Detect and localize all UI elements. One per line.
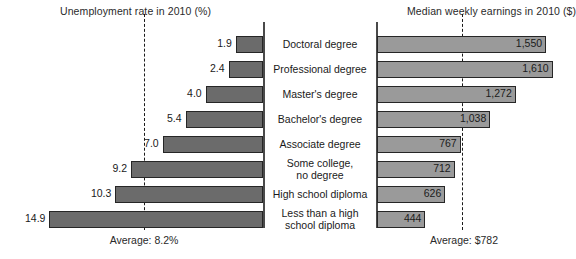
category-label: Bachelor's degree: [267, 107, 373, 132]
unemployment-bar: [49, 211, 263, 228]
unemployment-bar: [229, 61, 263, 78]
right-panel-title: Median weekly earnings in 2010 ($): [407, 5, 576, 17]
unemployment-value-label: 5.4: [167, 112, 182, 124]
category-label: High school diploma: [267, 182, 373, 207]
left-average-label: Average: 8.2%: [110, 234, 179, 246]
chart-row: 2.4Professional degree1,610: [0, 57, 568, 82]
earnings-value-label: 1,038: [460, 112, 486, 124]
category-label: Some college, no degree: [267, 157, 373, 182]
left-panel-title: Unemployment rate in 2010 (%): [60, 5, 211, 17]
chart-row: 1.9Doctoral degree1,550: [0, 32, 568, 57]
unemployment-bar: [186, 111, 263, 128]
unemployment-value-label: 7.0: [144, 137, 159, 149]
unemployment-value-label: 14.9: [25, 212, 45, 224]
earnings-value-label: 1,550: [516, 37, 542, 49]
unemployment-value-label: 4.0: [187, 87, 202, 99]
earnings-value-label: 626: [424, 187, 442, 199]
category-label: Associate degree: [267, 132, 373, 157]
unemployment-bar: [163, 136, 263, 153]
chart-row: 7.0Associate degree767: [0, 132, 568, 157]
category-label: Professional degree: [267, 57, 373, 82]
earnings-value-label: 444: [404, 212, 422, 224]
chart-row: 4.0Master's degree1,272: [0, 82, 568, 107]
unemployment-value-label: 2.4: [210, 62, 225, 74]
chart-row: 10.3High school diploma626: [0, 182, 568, 207]
category-label: Master's degree: [267, 82, 373, 107]
unemployment-bar: [115, 186, 263, 203]
earnings-value-label: 767: [439, 137, 457, 149]
unemployment-value-label: 10.3: [91, 187, 111, 199]
right-average-label: Average: $782: [430, 234, 498, 246]
chart-row: 9.2Some college, no degree712: [0, 157, 568, 182]
unemployment-bar: [131, 161, 263, 178]
chart-row: 5.4Bachelor's degree1,038: [0, 107, 568, 132]
earnings-value-label: 1,610: [522, 62, 548, 74]
unemployment-value-label: 9.2: [113, 162, 128, 174]
unemployment-bar: [206, 86, 263, 103]
unemployment-bar: [236, 36, 263, 53]
category-label: Doctoral degree: [267, 32, 373, 57]
earnings-value-label: 712: [433, 162, 451, 174]
unemployment-value-label: 1.9: [217, 37, 232, 49]
chart-row: 14.9Less than a high school diploma444: [0, 207, 568, 232]
category-label: Less than a high school diploma: [267, 207, 373, 232]
earnings-value-label: 1,272: [485, 87, 511, 99]
